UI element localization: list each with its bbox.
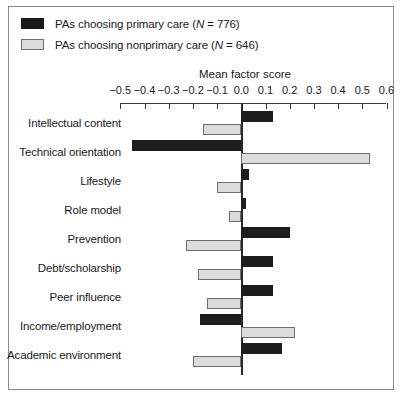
- bar-row: Peer influence: [0, 284, 403, 313]
- x-tick-mark: [217, 103, 218, 109]
- bar-nonprimary-care: [186, 240, 242, 251]
- bar-row: Role model: [0, 197, 403, 226]
- bar-row: Income/employment: [0, 313, 403, 342]
- x-tick-label: −0.5: [109, 84, 131, 96]
- x-tick-mark: [169, 103, 170, 109]
- bar-row: Intellectual content: [0, 110, 403, 139]
- x-tick-label: 0.5: [355, 84, 370, 96]
- category-label: Income/employment: [20, 320, 121, 332]
- bar-nonprimary-care: [241, 153, 369, 164]
- x-tick-mark: [120, 103, 121, 109]
- x-axis-line: [121, 103, 386, 104]
- category-label: Prevention: [68, 233, 121, 245]
- x-tick-mark: [338, 103, 339, 109]
- bar-row: Debt/scholarship: [0, 255, 403, 284]
- category-label: Intellectual content: [28, 117, 121, 129]
- bar-row: Lifestyle: [0, 168, 403, 197]
- x-tick-label: 0.1: [258, 84, 273, 96]
- x-tick-label: 0.4: [330, 84, 345, 96]
- x-tick-label: −0.3: [158, 84, 180, 96]
- bar-nonprimary-care: [241, 327, 294, 338]
- x-tick-mark: [193, 103, 194, 109]
- category-label: Role model: [64, 204, 121, 216]
- x-tick-label: −0.2: [182, 84, 204, 96]
- bar-rows: Intellectual contentTechnical orientatio…: [0, 110, 403, 371]
- x-tick-mark: [266, 103, 267, 109]
- bar-primary-care: [241, 285, 272, 296]
- bar-nonprimary-care: [229, 211, 241, 222]
- bar-row: Technical orientation: [0, 139, 403, 168]
- x-tick-label: 0.0: [234, 84, 249, 96]
- bar-primary-care: [132, 140, 241, 151]
- x-tick-mark: [145, 103, 146, 109]
- x-tick-mark: [387, 103, 388, 109]
- bar-nonprimary-care: [207, 298, 241, 309]
- x-tick-label: −0.4: [134, 84, 156, 96]
- x-tick-label: 0.3: [306, 84, 321, 96]
- x-tick-label: −0.1: [206, 84, 228, 96]
- plot-area: −0.5−0.4−0.3−0.2−0.10.00.10.20.30.40.50.…: [0, 0, 403, 399]
- bar-nonprimary-care: [193, 356, 241, 367]
- bar-primary-care: [200, 314, 241, 325]
- x-tick-label: 0.2: [282, 84, 297, 96]
- category-label: Peer influence: [50, 291, 121, 303]
- figure-chart-mean-factor-score: PAs choosing primary care (N = 776) PAs …: [0, 0, 403, 399]
- category-label: Debt/scholarship: [38, 262, 121, 274]
- bar-nonprimary-care: [198, 269, 242, 280]
- x-axis-tick-labels: −0.5−0.4−0.3−0.2−0.10.00.10.20.30.40.50.…: [0, 84, 403, 98]
- bar-primary-care: [241, 343, 282, 354]
- bar-primary-care: [241, 256, 272, 267]
- bar-row: Prevention: [0, 226, 403, 255]
- category-label: Technical orientation: [19, 146, 121, 158]
- bar-primary-care: [241, 111, 272, 122]
- category-label: Academic environment: [7, 349, 121, 361]
- bar-primary-care: [241, 198, 246, 209]
- bar-nonprimary-care: [217, 182, 241, 193]
- bar-nonprimary-care: [203, 124, 242, 135]
- bar-row: Academic environment: [0, 342, 403, 371]
- x-tick-label: 0.6: [379, 84, 394, 96]
- x-tick-mark: [290, 103, 291, 109]
- bar-primary-care: [241, 227, 289, 238]
- category-label: Lifestyle: [80, 175, 121, 187]
- bar-primary-care: [241, 169, 248, 180]
- x-tick-mark: [314, 103, 315, 109]
- x-tick-mark: [362, 103, 363, 109]
